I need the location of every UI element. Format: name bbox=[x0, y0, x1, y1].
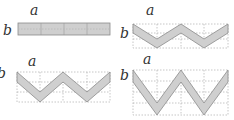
label-a: a bbox=[28, 53, 36, 69]
zigzag-band bbox=[133, 70, 228, 115]
zigzag-band bbox=[17, 72, 110, 102]
panel-flat-strip: a b bbox=[3, 2, 110, 38]
panel-zigzag-medium: a b bbox=[0, 53, 110, 102]
diagram-canvas: a b a b a b a b bbox=[0, 0, 234, 120]
label-b: b bbox=[0, 65, 6, 81]
label-b: b bbox=[3, 22, 12, 38]
panel-zigzag-small: a b bbox=[120, 2, 228, 48]
label-b: b bbox=[120, 67, 129, 83]
label-b: b bbox=[120, 25, 129, 41]
panel-zigzag-large: a b bbox=[120, 51, 228, 115]
label-a: a bbox=[143, 51, 151, 67]
zigzag-band bbox=[133, 24, 228, 48]
label-a: a bbox=[146, 2, 154, 18]
label-a: a bbox=[30, 2, 38, 18]
